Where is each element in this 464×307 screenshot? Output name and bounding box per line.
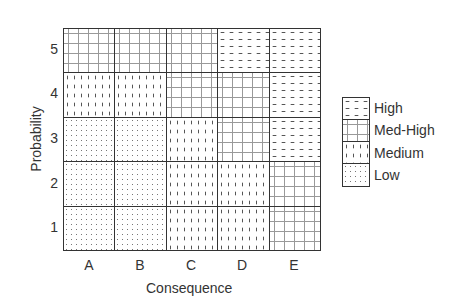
cell-p4-d — [217, 72, 270, 118]
legend-swatch-med-high — [342, 119, 370, 142]
cell-p1-b — [114, 206, 167, 252]
risk-matrix-chart: 5 4 3 2 1 A B C D E Consequence Probabil… — [0, 0, 464, 307]
y-tick-1: 1 — [44, 219, 58, 235]
cell-p2-e — [269, 161, 322, 207]
y-tick-2: 2 — [44, 175, 58, 191]
legend-label-low: Low — [374, 167, 400, 183]
legend-swatch-low — [342, 163, 370, 187]
x-tick-c: C — [181, 257, 201, 273]
x-axis-title: Consequence — [146, 280, 232, 296]
cell-p3-a — [63, 117, 116, 163]
x-tick-e: E — [284, 257, 304, 273]
cell-p2-d — [217, 161, 270, 207]
x-tick-b: B — [130, 257, 150, 273]
cell-p4-a — [63, 72, 116, 118]
cell-p4-b — [114, 72, 167, 118]
legend-label-high: High — [374, 100, 403, 116]
cell-p4-e — [269, 72, 322, 118]
legend-label-med-high: Med-High — [374, 122, 435, 138]
cell-p3-c — [166, 117, 219, 163]
legend-swatch-medium — [342, 141, 370, 164]
x-tick-d: D — [232, 257, 252, 273]
legend-swatch-high — [342, 97, 370, 120]
y-tick-5: 5 — [44, 41, 58, 57]
cell-p5-b — [114, 28, 167, 74]
cell-p5-c — [166, 28, 219, 74]
y-tick-3: 3 — [44, 130, 58, 146]
legend-label-medium: Medium — [374, 145, 424, 161]
cell-p3-e — [269, 117, 322, 163]
cell-p5-d — [217, 28, 270, 74]
cell-p2-a — [63, 161, 116, 207]
cell-p4-c — [166, 72, 219, 118]
cell-p1-e — [269, 206, 322, 252]
cell-p1-a — [63, 206, 116, 252]
cell-p5-e — [269, 28, 322, 74]
cell-p1-c — [166, 206, 219, 252]
y-tick-4: 4 — [44, 85, 58, 101]
cell-p1-d — [217, 206, 270, 252]
cell-p3-d — [217, 117, 270, 163]
x-tick-a: A — [79, 257, 99, 273]
y-axis-title: Probability — [28, 99, 44, 179]
cell-p2-b — [114, 161, 167, 207]
cell-p5-a — [63, 28, 116, 74]
cell-p2-c — [166, 161, 219, 207]
cell-p3-b — [114, 117, 167, 163]
